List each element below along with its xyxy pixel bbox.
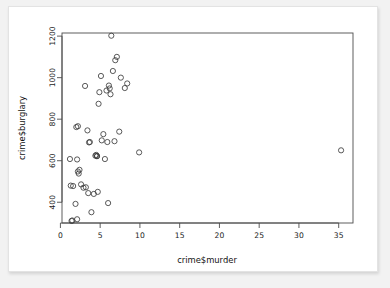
x-axis-title: crime$murder <box>177 255 237 265</box>
screenshot-root: 40060080010001200 05101520253035 crime$m… <box>0 0 390 288</box>
x-tick-label: 25 <box>254 231 264 240</box>
data-point <box>125 81 130 86</box>
x-axis: 05101520253035 <box>58 223 344 240</box>
x-tick-label: 35 <box>334 231 344 240</box>
data-point <box>105 139 110 144</box>
data-point <box>82 83 87 88</box>
data-point <box>137 150 142 155</box>
data-point <box>73 201 78 206</box>
data-point <box>106 200 111 205</box>
data-point <box>112 139 117 144</box>
y-tick-label: 1000 <box>49 68 58 87</box>
data-points-layer <box>67 33 343 223</box>
data-point <box>96 101 101 106</box>
x-tick-label: 20 <box>215 231 225 240</box>
x-tick-label: 30 <box>294 231 304 240</box>
data-point <box>75 157 80 162</box>
x-tick-label: 0 <box>58 231 63 240</box>
plot-canvas: 40060080010001200 05101520253035 crime$m… <box>8 6 378 272</box>
y-tick-label: 1200 <box>49 26 58 45</box>
y-axis-title: crime$burglary <box>17 96 27 160</box>
y-tick-label: 400 <box>49 195 58 210</box>
x-tick-label: 15 <box>175 231 185 240</box>
x-tick-label: 10 <box>135 231 145 240</box>
y-tick-label: 800 <box>49 112 58 127</box>
data-point <box>108 92 113 97</box>
data-point <box>99 138 104 143</box>
data-point <box>85 128 90 133</box>
data-point <box>89 210 94 215</box>
scatter-plot-svg: 40060080010001200 05101520253035 crime$m… <box>9 7 377 271</box>
data-point <box>75 217 80 222</box>
y-axis: 40060080010001200 <box>49 26 63 209</box>
data-point <box>75 124 80 129</box>
data-point <box>117 129 122 134</box>
data-point <box>118 75 123 80</box>
data-point <box>67 156 72 161</box>
data-point <box>102 156 107 161</box>
data-point <box>98 73 103 78</box>
data-point <box>101 132 106 137</box>
y-tick-label: 600 <box>49 153 58 168</box>
plot-frame <box>62 33 353 223</box>
data-point <box>338 148 343 153</box>
x-tick-label: 5 <box>98 231 103 240</box>
data-point <box>109 33 114 38</box>
data-point <box>86 191 91 196</box>
data-point <box>110 68 115 73</box>
data-point <box>97 90 102 95</box>
